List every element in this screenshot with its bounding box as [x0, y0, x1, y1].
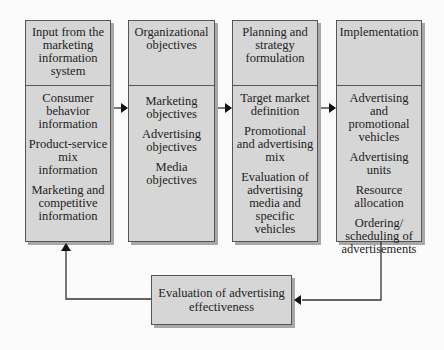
- connector-arrows: [0, 0, 444, 350]
